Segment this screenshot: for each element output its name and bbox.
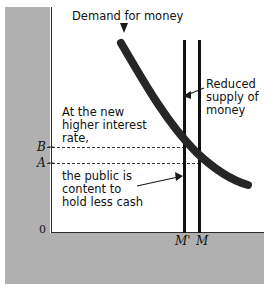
origin-label: 0 [39, 223, 46, 236]
y-tick-label-b: B [37, 140, 46, 154]
dashed-line-b [47, 147, 185, 148]
hold-less-cash-note: the public is content to hold less cash [62, 170, 143, 209]
demand-curve-label: Demand for money [72, 10, 183, 23]
x-tick-label-m-prime: M' [175, 234, 191, 248]
supply-line-m-prime [183, 40, 186, 233]
x-axis [51, 232, 264, 233]
money-demand-supply-figure: B A 0 M' M Demand for money At the new h… [0, 0, 269, 289]
supply-line-m [198, 40, 201, 233]
higher-interest-rate-note: At the new higher interest rate, [62, 106, 147, 145]
dashed-line-a [47, 163, 200, 164]
x-tick-label-m: M [196, 234, 208, 248]
y-tick-label-a: A [37, 156, 46, 170]
y-axis [51, 7, 52, 233]
reduced-supply-note: Reduced supply of money [206, 78, 259, 117]
